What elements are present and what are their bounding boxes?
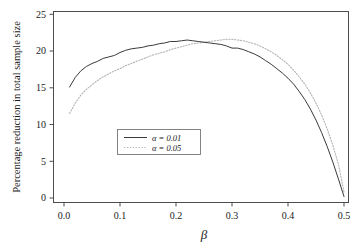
y-axis-title: Percentage reduction in total sample siz…	[11, 21, 22, 193]
plot-frame	[54, 12, 349, 203]
x-tick-label: 0.3	[226, 210, 239, 221]
legend-label-alpha-005: α = 0.05	[152, 143, 181, 153]
x-tick-label: 0.1	[114, 210, 127, 221]
legend-label-alpha-001: α = 0.01	[152, 133, 181, 143]
y-tick-label: 20	[36, 45, 46, 56]
series-line-alpha-005	[70, 39, 344, 192]
legend: α = 0.01 α = 0.05	[118, 130, 201, 155]
x-tick-label: 0.2	[170, 210, 183, 221]
y-tick-label: 15	[36, 82, 46, 93]
x-tick-label: 0.0	[58, 210, 71, 221]
y-tick-label: 25	[36, 9, 46, 20]
line-chart: 25 20 15 10 5 0 0.0 0.1 0.2 0.3 0.4	[0, 0, 363, 247]
y-axis: 25 20 15 10 5 0	[36, 9, 54, 204]
y-tick-label: 10	[36, 119, 46, 130]
x-tick-label: 0.4	[282, 210, 295, 221]
x-tick-label: 0.5	[338, 210, 351, 221]
y-tick-label: 5	[41, 156, 46, 167]
y-tick-label: 0	[41, 192, 46, 203]
x-axis: 0.0 0.1 0.2 0.3 0.4 0.5	[58, 203, 351, 222]
x-axis-title: β	[200, 227, 208, 242]
figure-panel: 25 20 15 10 5 0 0.0 0.1 0.2 0.3 0.4	[0, 0, 363, 247]
series-line-alpha-001	[70, 40, 344, 197]
